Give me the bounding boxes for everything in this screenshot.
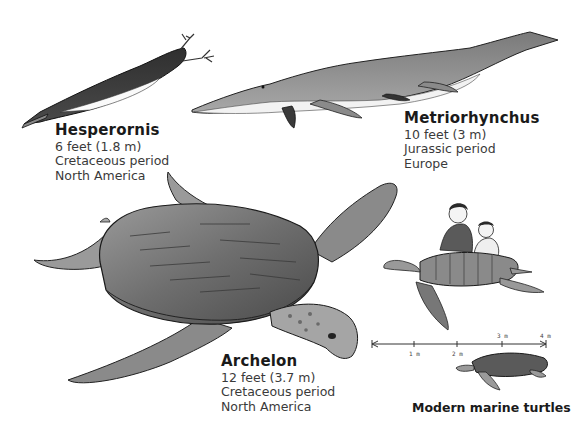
archelon-period: Cretaceous period	[221, 385, 335, 400]
archelon-name: Archelon	[221, 353, 335, 371]
metriorhynchus-name: Metriorhynchus	[404, 110, 540, 128]
hesperornis-label: Hesperornis 6 feet (1.8 m) Cretaceous pe…	[55, 122, 169, 184]
metriorhynchus-period: Jurassic period	[404, 142, 540, 157]
hesperornis-period: Cretaceous period	[55, 154, 169, 169]
modern-turtle-with-children-drawing	[384, 203, 544, 330]
archelon-label: Archelon 12 feet (3.7 m) Cretaceous peri…	[221, 353, 335, 415]
scale-bar	[372, 340, 546, 348]
illustration: Hesperornis 6 feet (1.8 m) Cretaceous pe…	[0, 0, 588, 436]
scale-tick-2m: 2 m	[452, 350, 463, 357]
hesperornis-region: North America	[55, 169, 169, 184]
archelon-drawing	[34, 172, 397, 383]
scale-tick-1m: 1 m	[409, 350, 420, 357]
metriorhynchus-label: Metriorhynchus 10 feet (3 m) Jurassic pe…	[404, 110, 540, 172]
metriorhynchus-size: 10 feet (3 m)	[404, 128, 540, 143]
metriorhynchus-region: Europe	[404, 157, 540, 172]
scale-tick-3m: 3 m	[497, 332, 508, 339]
modern-turtles-caption: Modern marine turtles	[412, 400, 571, 415]
hesperornis-name: Hesperornis	[55, 122, 169, 140]
hesperornis-drawing	[22, 34, 214, 128]
small-modern-turtle-drawing	[456, 353, 547, 390]
archelon-size: 12 feet (3.7 m)	[221, 371, 335, 386]
hesperornis-size: 6 feet (1.8 m)	[55, 140, 169, 155]
scale-tick-4m: 4 m	[540, 332, 551, 339]
archelon-region: North America	[221, 400, 335, 415]
